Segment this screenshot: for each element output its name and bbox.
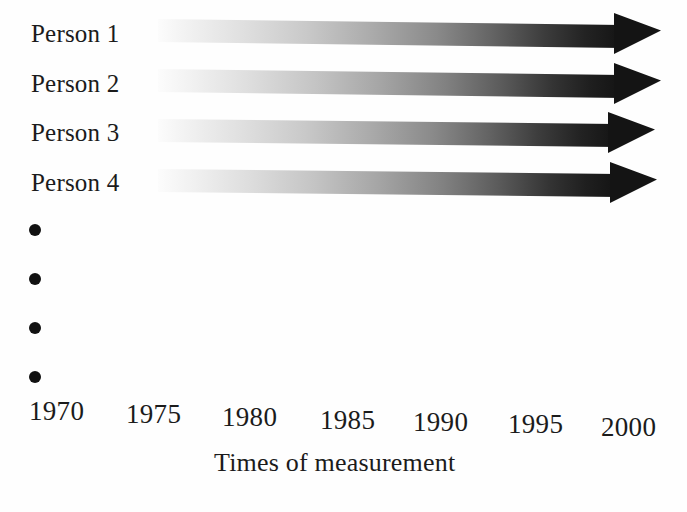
axis-tick-1985: 1985 <box>320 407 375 434</box>
row-label-person-2: Person 2 <box>31 71 119 96</box>
row-label-person-3: Person 3 <box>31 120 119 145</box>
time-arrow-person-3 <box>158 112 655 153</box>
continuation-bullet-4 <box>29 371 41 383</box>
row-label-person-1: Person 1 <box>31 21 119 46</box>
time-arrow-person-2 <box>158 63 661 104</box>
axis-tick-1970: 1970 <box>29 398 84 425</box>
time-arrow-person-4 <box>158 162 657 203</box>
x-axis-caption: Times of measurement <box>214 450 455 476</box>
longitudinal-design-figure: Person 1 Person 2 Person 3 Person 4 <box>0 0 687 512</box>
axis-tick-1990: 1990 <box>413 409 468 436</box>
axis-tick-1975: 1975 <box>126 401 181 428</box>
axis-tick-1995: 1995 <box>508 411 563 438</box>
time-arrow-person-1 <box>158 13 661 54</box>
continuation-bullet-3 <box>29 322 41 334</box>
axis-tick-2000: 2000 <box>601 414 656 441</box>
row-label-person-4: Person 4 <box>31 170 119 195</box>
continuation-bullet-2 <box>29 273 41 285</box>
axis-tick-1980: 1980 <box>222 404 277 431</box>
continuation-bullet-1 <box>29 224 41 236</box>
